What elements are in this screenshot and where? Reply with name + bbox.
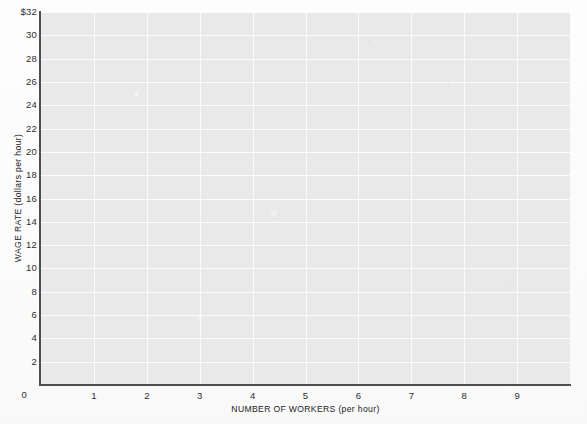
grid-line-vertical (517, 12, 518, 385)
x-axis-tick-label: 8 (452, 390, 476, 401)
grid-line-vertical (358, 12, 359, 385)
grid-line-horizontal (41, 129, 570, 130)
x-axis-tick-label: 2 (135, 390, 159, 401)
y-axis-tick-label: 6 (3, 310, 37, 320)
x-axis-title: NUMBER OF WORKERS (per hour) (41, 404, 570, 414)
grid-line-horizontal (41, 222, 570, 223)
x-axis-tick-label: 1 (82, 390, 106, 401)
grid-line-horizontal (41, 35, 570, 36)
grid-line-horizontal (41, 199, 570, 200)
grid-lines (41, 12, 570, 385)
grid-line-vertical (200, 12, 201, 385)
grid-line-vertical (411, 12, 412, 385)
grid-line-vertical (464, 12, 465, 385)
grid-line-vertical (94, 12, 95, 385)
x-axis-tick-label: 5 (294, 390, 318, 401)
grid-line-horizontal (41, 152, 570, 153)
y-axis-title: WAGE RATE (dollars per hour) (13, 118, 23, 278)
x-axis-line (39, 384, 571, 386)
x-axis-tick-label: 9 (505, 390, 529, 401)
grid-line-horizontal (41, 82, 570, 83)
grid-line-horizontal (41, 315, 570, 316)
grid-line-horizontal (41, 292, 570, 293)
x-axis-tick-label: 4 (241, 390, 265, 401)
y-axis-line (39, 11, 41, 386)
grid-line-vertical (147, 12, 148, 385)
y-axis-tick-label: $32 (3, 7, 37, 17)
y-axis-tick-label: 24 (3, 100, 37, 110)
grid-line-vertical (306, 12, 307, 385)
y-axis-origin-label: 0 (3, 390, 27, 400)
x-axis-tick-label: 6 (346, 390, 370, 401)
grid-line-horizontal (41, 338, 570, 339)
grid-line-horizontal (41, 245, 570, 246)
plot-area (41, 12, 570, 385)
x-axis-tick-label: 7 (399, 390, 423, 401)
grid-line-horizontal (41, 362, 570, 363)
y-axis-tick-label: 26 (3, 77, 37, 87)
grid-line-horizontal (41, 268, 570, 269)
y-axis-tick-label: 28 (3, 54, 37, 64)
grid-line-horizontal (41, 59, 570, 60)
y-axis-tick-label: 30 (3, 30, 37, 40)
grid-line-horizontal (41, 105, 570, 106)
y-axis-tick-label: 8 (3, 287, 37, 297)
y-axis-tick-label: 4 (3, 333, 37, 343)
grid-line-vertical (253, 12, 254, 385)
x-axis-tick-label: 3 (188, 390, 212, 401)
grid-line-horizontal (41, 175, 570, 176)
chart-figure: 24681012141618202224262830$320 123456789… (0, 0, 587, 424)
paper-texture (41, 12, 570, 385)
grid-line-horizontal (41, 12, 570, 13)
y-axis-tick-label: 2 (3, 357, 37, 367)
